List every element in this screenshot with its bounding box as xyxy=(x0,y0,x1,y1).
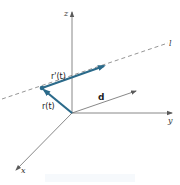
r-prime-label: r'(t) xyxy=(51,72,66,81)
y-axis-label: y xyxy=(167,116,173,125)
x-axis xyxy=(16,113,72,170)
z-axis-label: z xyxy=(63,9,69,18)
line-l-label: l xyxy=(169,39,172,48)
vector-line-diagram: z y x l r'(t) r(t) d xyxy=(0,0,180,185)
point-on-line xyxy=(40,86,45,91)
line-l xyxy=(2,43,168,99)
r-label: r(t) xyxy=(42,102,55,111)
x-axis-label: x xyxy=(21,166,26,175)
d-label: d xyxy=(98,92,104,102)
